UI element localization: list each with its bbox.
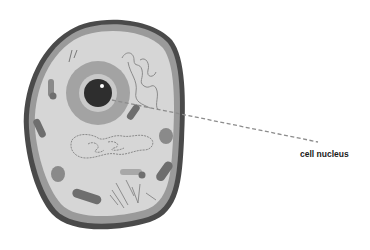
label-cell-nucleus: cell nucleus bbox=[300, 149, 349, 159]
vesicle bbox=[159, 128, 173, 144]
vesicle bbox=[139, 172, 146, 179]
vesicle bbox=[51, 166, 65, 182]
vesicle bbox=[50, 93, 57, 100]
cell-diagram bbox=[0, 0, 370, 250]
nucleolus-highlight bbox=[100, 84, 104, 88]
nucleolus bbox=[84, 79, 112, 107]
